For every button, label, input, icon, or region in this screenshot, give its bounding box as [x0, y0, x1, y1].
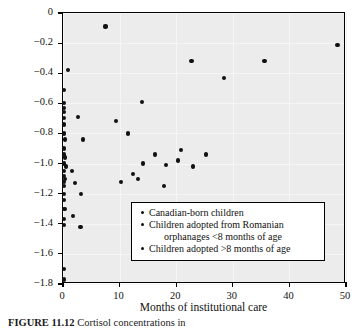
x-axis-title: Months of institutional care — [62, 301, 345, 313]
scatter-point — [62, 110, 66, 114]
scatter-point — [73, 181, 77, 185]
scatter-point — [131, 172, 135, 176]
gridline-horizontal — [63, 194, 344, 195]
scatter-point — [62, 101, 66, 105]
scatter-point — [141, 161, 145, 165]
scatter-point — [62, 116, 66, 120]
scatter-point — [63, 207, 67, 211]
x-axis-tick-label: 40 — [268, 291, 308, 302]
x-axis-tick-label: 10 — [99, 291, 139, 302]
scatter-point — [79, 192, 83, 196]
gridline-horizontal — [63, 133, 344, 134]
figure-caption-label: FIGURE 11.12 — [8, 317, 75, 328]
legend-item-label: Children adopted >8 months of age — [149, 243, 318, 254]
scatter-point — [62, 198, 66, 202]
scatter-point — [62, 122, 66, 126]
y-axis-tick-label: −1.8 — [0, 278, 53, 289]
scatter-point — [64, 164, 68, 168]
scatter-point — [62, 223, 66, 227]
figure-caption: FIGURE 11.12 Cortisol concentrations in — [8, 317, 358, 328]
scatter-point — [153, 152, 157, 156]
scatter-point — [191, 164, 195, 168]
y-axis-tick — [58, 253, 63, 254]
gridline-horizontal — [63, 284, 344, 285]
gridline-horizontal — [63, 73, 344, 74]
scatter-point — [63, 137, 67, 141]
y-axis-tick-label: −1.2 — [0, 188, 53, 199]
legend-item: Children adopted >8 months of age — [138, 243, 318, 254]
scatter-point — [179, 148, 183, 152]
scatter-point — [262, 59, 266, 63]
scatter-point — [189, 59, 193, 63]
legend-item: Canadian-born children — [138, 207, 318, 218]
y-axis-tick-label: −0.6 — [0, 97, 53, 108]
figure-container: Evening cortisol (log 10) 0−0.2−0.4−0.6−… — [0, 0, 361, 328]
legend-item-label: Children adopted from Romanian orphanage… — [149, 219, 318, 242]
y-axis-tick-label: 0 — [0, 7, 53, 18]
x-axis-tick — [119, 282, 120, 287]
scatter-point — [71, 214, 75, 218]
scatter-point — [335, 43, 339, 47]
scatter-point — [81, 137, 85, 141]
y-axis-title: Evening cortisol (log 10) — [0, 0, 11, 36]
gridline-vertical — [120, 13, 121, 282]
scatter-point — [164, 163, 168, 167]
x-axis-tick — [62, 282, 63, 287]
y-axis-tick-label: −0.2 — [0, 37, 53, 48]
scatter-point — [62, 131, 66, 135]
legend-item-line1: Children adopted from Romanian — [149, 219, 284, 230]
scatter-point — [70, 169, 74, 173]
legend-marker-dot — [141, 223, 144, 226]
scatter-point — [162, 184, 166, 188]
x-axis-tick-label: 20 — [155, 291, 195, 302]
x-axis-tick — [345, 282, 346, 287]
legend-marker-dot — [141, 247, 144, 250]
scatter-point — [62, 169, 66, 173]
scatter-point — [140, 100, 144, 104]
x-axis-tick-label: 0 — [42, 291, 82, 302]
scatter-point — [204, 152, 208, 156]
gridline-vertical — [346, 13, 347, 282]
figure-caption-body: Cortisol concentrations in — [77, 317, 185, 328]
scatter-point — [78, 225, 82, 229]
scatter-point — [222, 76, 226, 80]
y-axis-tick — [58, 73, 63, 74]
scatter-point — [62, 146, 66, 150]
legend-marker-dot — [141, 211, 144, 214]
legend-item-line1: Children adopted >8 months of age — [149, 243, 290, 254]
scatter-point — [62, 88, 66, 92]
chart-legend: Canadian-born children Children adopted … — [131, 202, 325, 261]
scatter-point — [103, 24, 107, 28]
y-axis-tick — [58, 12, 63, 13]
scatter-point — [63, 155, 67, 159]
scatter-point — [62, 277, 66, 281]
y-axis-tick-label: −0.8 — [0, 127, 53, 138]
gridline-horizontal — [63, 103, 344, 104]
legend-item: Children adopted from Romanian orphanage… — [138, 219, 318, 242]
y-axis-tick — [58, 43, 63, 44]
x-axis-tick-label: 50 — [325, 291, 361, 302]
y-axis-tick-label: −1.4 — [0, 218, 53, 229]
scatter-point — [62, 184, 66, 188]
scatter-point — [66, 68, 70, 72]
legend-item-line1: Canadian-born children — [149, 207, 244, 218]
scatter-point — [126, 131, 130, 135]
scatter-point — [114, 119, 118, 123]
gridline-horizontal — [63, 43, 344, 44]
y-axis-tick-label: −0.4 — [0, 67, 53, 78]
scatter-point — [119, 180, 123, 184]
scatter-point — [62, 192, 66, 196]
gridline-horizontal — [63, 13, 344, 14]
gridline-horizontal — [63, 164, 344, 165]
y-axis-tick-label: −1.6 — [0, 248, 53, 259]
legend-item-line2: orphanages <8 months of age — [149, 231, 318, 242]
scatter-point — [62, 267, 66, 271]
scatter-point — [76, 115, 80, 119]
legend-item-label: Canadian-born children — [149, 207, 318, 218]
y-axis-tick-label: −1.0 — [0, 158, 53, 169]
scatter-point — [136, 177, 140, 181]
x-axis-tick — [232, 282, 233, 287]
x-axis-tick — [289, 282, 290, 287]
x-axis-tick-label: 30 — [212, 291, 252, 302]
x-axis-tick — [176, 282, 177, 287]
